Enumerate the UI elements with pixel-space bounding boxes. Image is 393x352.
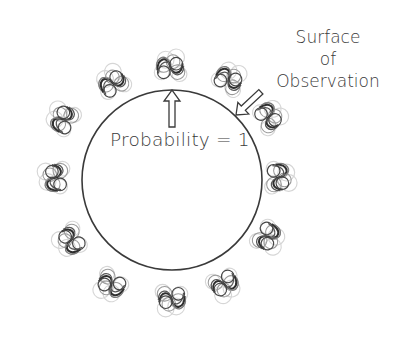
wave-swirl-icon <box>88 264 132 308</box>
wave-swirls <box>37 49 298 317</box>
wave-swirl-icon <box>264 161 297 194</box>
wave-swirl-icon <box>37 161 70 194</box>
surface-label-line-3: Observation <box>263 70 393 92</box>
probability-arrow-icon <box>164 90 180 127</box>
probability-label: Probability = 1 <box>110 129 250 150</box>
wave-swirl-icon <box>154 49 187 82</box>
wave-swirl-icon <box>155 284 188 317</box>
observation-diagram: Probability = 1 Surface of Observation <box>0 0 393 352</box>
wave-swirl-icon <box>40 96 84 140</box>
surface-label-line-1: Surface <box>263 26 393 48</box>
surface-label-line-2: of <box>263 48 393 70</box>
surface-of-observation-label: Surface of Observation <box>263 26 393 92</box>
wave-swirl-icon <box>247 216 292 261</box>
wave-swirl-icon <box>203 264 247 308</box>
wave-swirl-icon <box>90 59 135 104</box>
wave-swirl-icon <box>208 56 252 100</box>
surface-arrow-icon <box>231 86 267 121</box>
wave-swirl-icon <box>47 219 92 264</box>
